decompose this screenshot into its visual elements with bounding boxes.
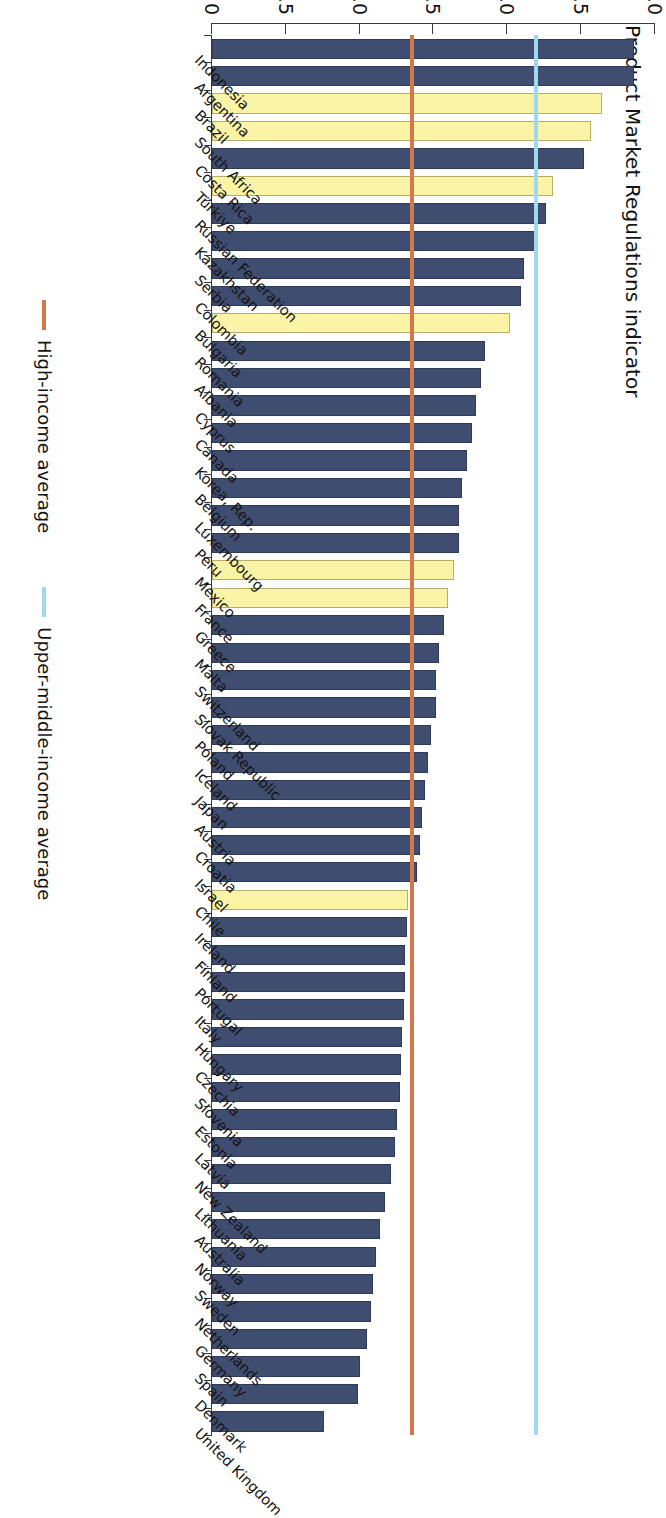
category-tick [204, 35, 212, 36]
value-tick-label: 1.5 [423, 0, 445, 15]
bar-slot [212, 859, 655, 886]
reference-line-high [410, 35, 414, 1435]
bar-slot [212, 831, 655, 858]
bar[interactable] [212, 999, 404, 1019]
value-tick [654, 23, 655, 34]
value-tick [433, 23, 434, 34]
bar[interactable] [212, 643, 439, 663]
legend-swatch-icon [43, 587, 47, 617]
bar[interactable] [212, 835, 420, 855]
bar-slot [212, 694, 655, 721]
bar-slot [212, 172, 655, 199]
bar-slot [212, 749, 655, 776]
bar[interactable] [212, 670, 436, 690]
bar-slot [212, 529, 655, 556]
bar-slot [212, 639, 655, 666]
bar[interactable] [212, 423, 472, 443]
bar[interactable] [212, 615, 444, 635]
reference-line-upper-middle [534, 35, 538, 1435]
bar-slot [212, 145, 655, 172]
bar-slot [212, 227, 655, 254]
bar-slot [212, 914, 655, 941]
bar-slot [212, 1325, 655, 1352]
bar[interactable] [212, 368, 481, 388]
bar[interactable] [212, 780, 425, 800]
bar-slot [212, 804, 655, 831]
bar-slot [212, 1133, 655, 1160]
bar-slot [212, 557, 655, 584]
bar-slot [212, 90, 655, 117]
bar[interactable] [212, 66, 634, 86]
bar-slot [212, 1051, 655, 1078]
bar[interactable] [212, 478, 462, 498]
bars-container [212, 35, 655, 1435]
bar-slot [212, 968, 655, 995]
legend-label: High-income average [34, 340, 55, 533]
bar[interactable] [212, 945, 405, 965]
bar-slot [212, 1243, 655, 1270]
value-tick [285, 23, 286, 34]
bar-slot [212, 200, 655, 227]
bar-slot [212, 941, 655, 968]
bar[interactable] [212, 450, 467, 470]
bar-slot [212, 502, 655, 529]
bar-slot [212, 474, 655, 501]
bar[interactable] [212, 972, 405, 992]
bar[interactable] [212, 93, 602, 113]
bar-slot [212, 337, 655, 364]
legend-label: Upper-middle-income average [34, 627, 55, 900]
bar[interactable] [212, 697, 436, 717]
bar[interactable] [212, 395, 476, 415]
legend-item[interactable]: Upper-middle-income average [34, 587, 55, 900]
bar[interactable] [212, 203, 546, 223]
bar[interactable] [212, 148, 584, 168]
bar[interactable] [212, 1164, 391, 1184]
bar-slot [212, 364, 655, 391]
bar[interactable] [212, 862, 417, 882]
value-tick-label: 2.5 [570, 0, 592, 15]
bar-slot [212, 1188, 655, 1215]
value-tick-label: 1.0 [349, 0, 371, 15]
value-tick-label: 3.0 [644, 0, 666, 15]
bar[interactable] [212, 231, 537, 251]
value-tick [580, 23, 581, 34]
bar-slot [212, 666, 655, 693]
bar-slot [212, 584, 655, 611]
value-tick [506, 23, 507, 34]
bar-slot [212, 255, 655, 282]
bar-slot [212, 1270, 655, 1297]
bar-slot [212, 419, 655, 446]
bar-slot [212, 1106, 655, 1133]
bar-slot [212, 1215, 655, 1242]
bar-slot [212, 1298, 655, 1325]
bar[interactable] [212, 1192, 385, 1212]
bar-slot [212, 35, 655, 62]
bar-slot [212, 392, 655, 419]
bar-slot [212, 62, 655, 89]
bar[interactable] [212, 890, 408, 910]
bar-slot [212, 447, 655, 474]
bar-slot [212, 721, 655, 748]
value-tick-label: 0 [201, 3, 223, 15]
bar-slot [212, 996, 655, 1023]
legend-swatch-icon [43, 300, 47, 330]
bar[interactable] [212, 533, 459, 553]
bar[interactable] [212, 917, 407, 937]
legend-item[interactable]: High-income average [34, 300, 55, 533]
value-tick-label: 2.0 [496, 0, 518, 15]
bar[interactable] [212, 807, 422, 827]
bar-slot [212, 1161, 655, 1188]
bar[interactable] [212, 1054, 401, 1074]
value-axis-spine [212, 23, 655, 24]
value-tick [359, 23, 360, 34]
bar[interactable] [212, 341, 485, 361]
bar[interactable] [212, 176, 553, 196]
value-tick-label: 0.5 [275, 0, 297, 15]
bar[interactable] [212, 39, 634, 59]
bar-slot [212, 612, 655, 639]
bar[interactable] [212, 313, 510, 333]
bar-slot [212, 1353, 655, 1380]
chart-legend: High-income averageUpper-middle-income a… [34, 300, 55, 900]
bar[interactable] [212, 1109, 397, 1129]
